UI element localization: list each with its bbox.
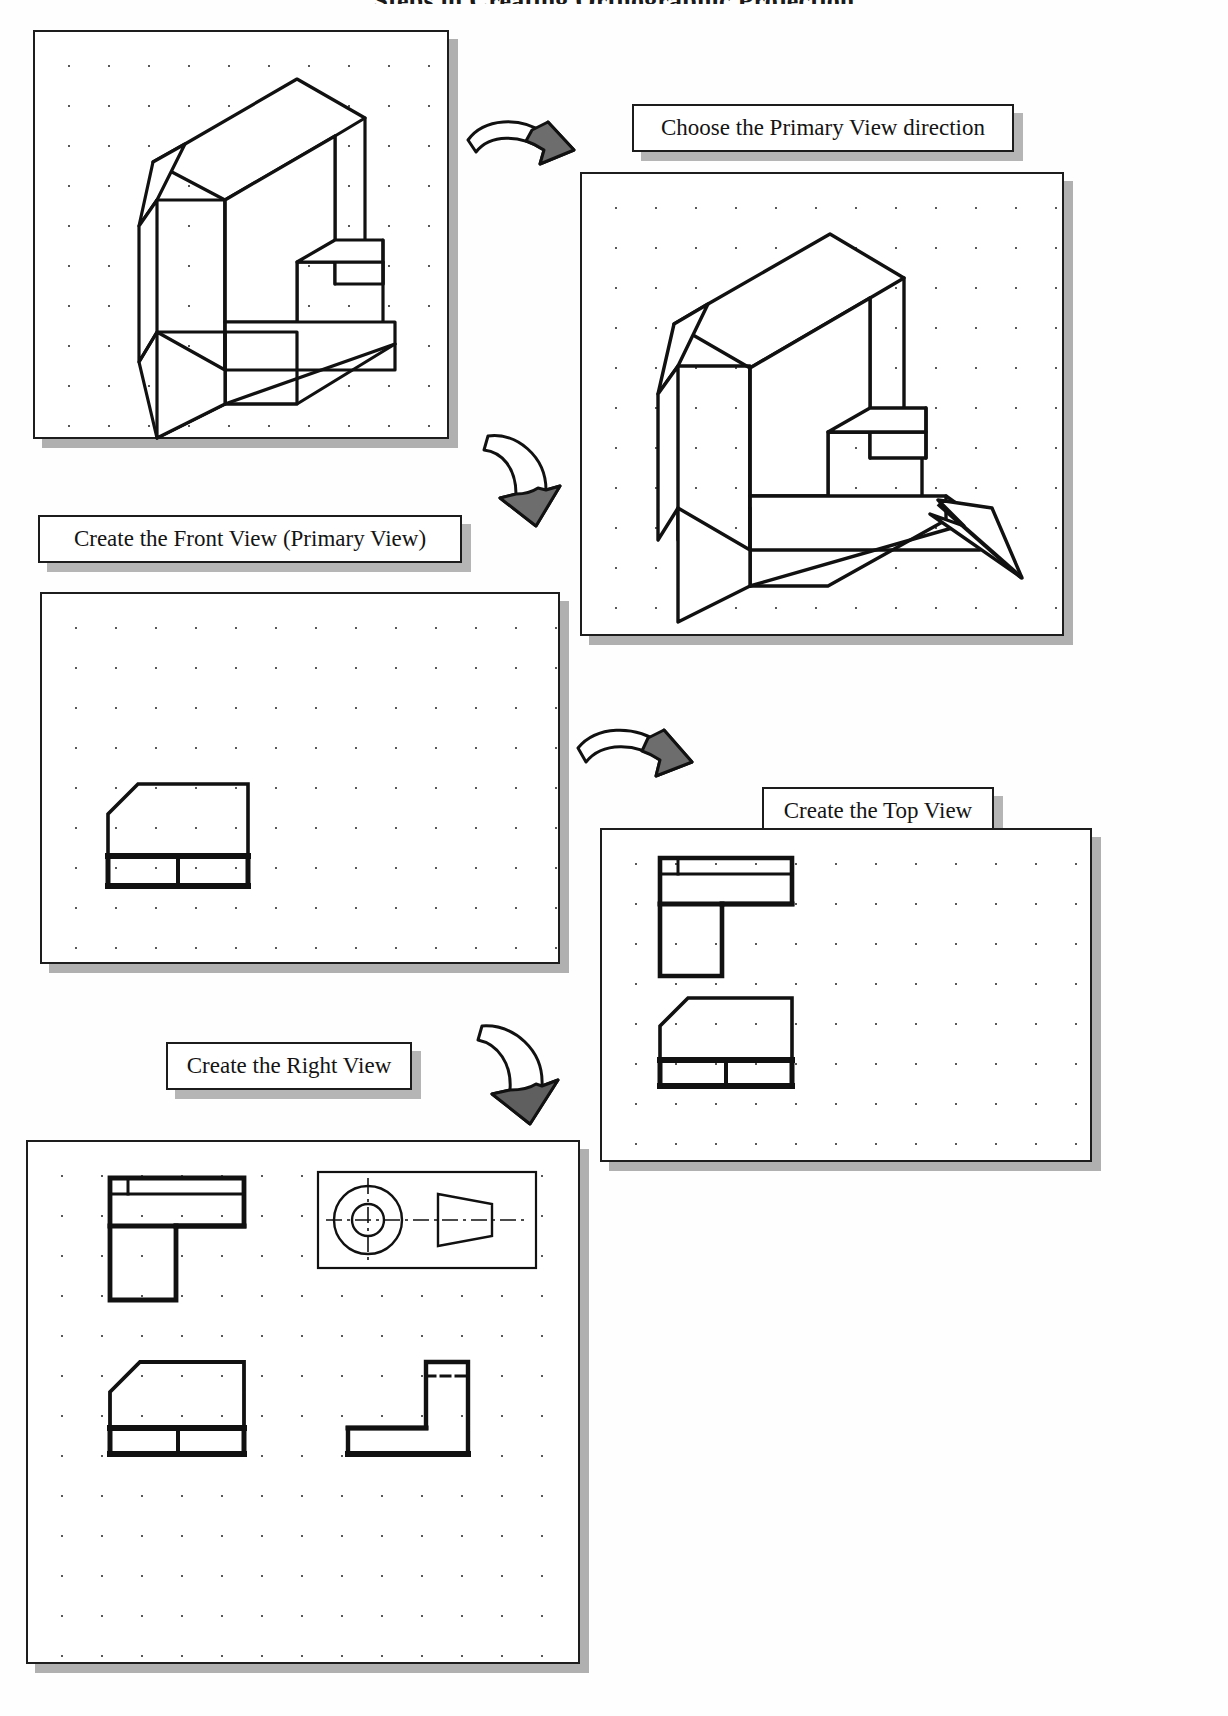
front-orthographic-view	[42, 594, 558, 962]
arrow-step-2	[470, 430, 580, 540]
panel-pictorial	[33, 30, 449, 439]
arrow-step-4	[462, 1020, 572, 1140]
arrow-step-3	[572, 722, 702, 812]
panel-three-view	[26, 1140, 580, 1664]
drawing-sheet: Steps in Creating Orthographic Projectio…	[0, 0, 1228, 1716]
caption-create-right-view: Create the Right View	[166, 1042, 412, 1090]
isometric-block-drawing	[35, 32, 447, 437]
caption-label: Create the Right View	[187, 1053, 392, 1079]
three-view-orthographic-drawing	[28, 1142, 578, 1662]
panel-primary-view	[580, 172, 1064, 636]
caption-label: Choose the Primary View direction	[661, 115, 985, 141]
caption-label: Create the Front View (Primary View)	[74, 526, 426, 552]
page-title: Steps in Creating Orthographic Projectio…	[0, 0, 1228, 4]
panel-top-front	[600, 828, 1092, 1162]
top-and-front-views	[602, 830, 1090, 1160]
view-direction-arrow	[930, 500, 1022, 578]
panel-front-view	[40, 592, 560, 964]
projection-symbol	[318, 1172, 536, 1268]
isometric-block-with-view-arrow	[582, 174, 1062, 634]
caption-create-front-view: Create the Front View (Primary View)	[38, 515, 462, 563]
arrow-step-1	[462, 112, 582, 202]
caption-choose-primary-view: Choose the Primary View direction	[632, 104, 1014, 152]
caption-label: Create the Top View	[784, 798, 972, 824]
